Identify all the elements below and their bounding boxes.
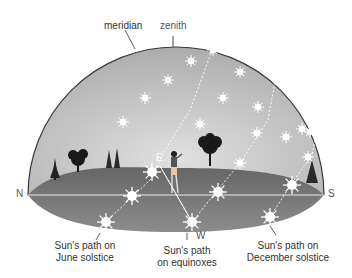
west-label: W	[196, 230, 205, 241]
equinox-label: Sun's path on equinoxes	[142, 245, 232, 269]
june-label-pointer	[96, 233, 100, 240]
north-label: N	[16, 188, 23, 199]
june-solstice-label: Sun's path on June solstice	[40, 240, 130, 264]
zenith-label: zenith	[160, 20, 187, 32]
meridian-label: meridian	[104, 20, 142, 32]
december-solstice-label: Sun's path on December solstice	[238, 240, 338, 264]
meridian-pointer	[125, 30, 135, 49]
south-label: S	[328, 188, 335, 199]
celestial-sphere-diagram	[0, 0, 352, 278]
east-label: E	[156, 152, 163, 163]
december-label-pointer	[270, 226, 276, 235]
